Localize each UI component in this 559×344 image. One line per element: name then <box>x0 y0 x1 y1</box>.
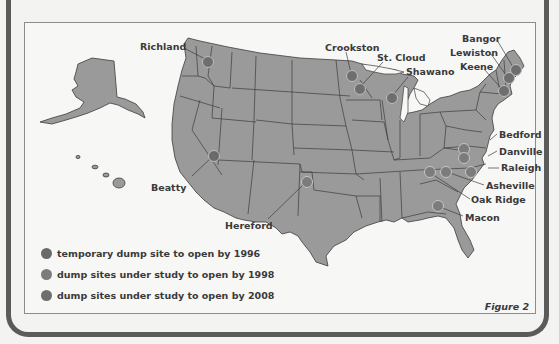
site-dot-hereford <box>301 176 313 188</box>
site-dot-lewiston <box>503 72 515 84</box>
lake-huron-erie <box>414 88 430 106</box>
label-beatty: Beatty <box>151 183 186 193</box>
label-oak-ridge: Oak Ridge <box>471 195 526 205</box>
label-danville: Danville <box>499 147 542 157</box>
legend-dot-icon <box>41 248 52 259</box>
label-st-cloud: St. Cloud <box>377 53 426 63</box>
hawaii-maui <box>103 173 109 177</box>
label-richland: Richland <box>140 42 186 52</box>
figure-caption: Figure 2 <box>485 301 529 312</box>
label-crookston: Crookston <box>325 43 380 53</box>
site-dot-keene <box>498 85 510 97</box>
legend-item-2008: dump sites under study to open by 2008 <box>41 285 274 306</box>
site-dot-crookston <box>346 70 358 82</box>
legend-label: dump sites under study to open by 2008 <box>57 290 274 301</box>
site-dot-st-cloud <box>354 83 366 95</box>
site-dot-beatty <box>208 150 220 162</box>
alaska <box>40 58 145 124</box>
hawaii-big <box>113 178 125 188</box>
site-dot-shawano <box>386 92 398 104</box>
site-dot-raleigh <box>465 166 477 178</box>
label-shawano: Shawano <box>406 67 455 77</box>
label-lewiston: Lewiston <box>450 48 498 58</box>
label-bedford: Bedford <box>499 130 542 140</box>
label-asheville: Asheville <box>486 181 535 191</box>
site-dot-richland <box>202 56 214 68</box>
site-dot-danville <box>458 152 470 164</box>
legend-dot-icon <box>41 269 52 280</box>
site-dot-oak-ridge <box>424 166 436 178</box>
label-bangor: Bangor <box>462 34 500 44</box>
label-raleigh: Raleigh <box>501 163 541 173</box>
legend-item-1996: temporary dump site to open by 1996 <box>41 243 274 264</box>
legend-label: temporary dump site to open by 1996 <box>57 248 260 259</box>
hawaii-kauai <box>76 155 80 158</box>
legend: temporary dump site to open by 1996 dump… <box>41 243 274 306</box>
legend-dot-icon <box>41 290 52 301</box>
label-macon: Macon <box>465 213 500 223</box>
legend-item-1998: dump sites under study to open by 1998 <box>41 264 274 285</box>
label-hereford: Hereford <box>225 221 273 231</box>
site-dot-asheville <box>440 166 452 178</box>
label-keene: Keene <box>460 62 493 72</box>
legend-label: dump sites under study to open by 1998 <box>57 269 274 280</box>
hawaii-oahu <box>92 165 98 169</box>
site-dot-macon <box>432 200 444 212</box>
